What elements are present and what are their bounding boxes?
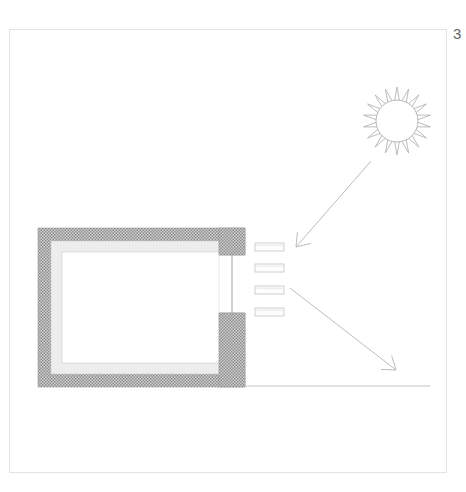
sun-ray	[395, 142, 400, 155]
louvre-slat-body	[255, 286, 284, 294]
sun-ray	[417, 122, 430, 127]
louvre-slat	[255, 286, 284, 294]
section-drawing	[0, 0, 466, 492]
louvre-slat	[255, 308, 284, 316]
arrow-shaft	[290, 288, 396, 370]
sun-ray	[395, 87, 400, 100]
sun-icon	[364, 87, 431, 155]
building-interior	[62, 252, 219, 363]
arrow-head-barb	[296, 232, 297, 247]
summer-sun-ray-arrow	[296, 161, 371, 247]
louvre-slat-body	[255, 264, 284, 272]
sun-ray	[364, 122, 377, 127]
diagram-page: 3	[0, 0, 466, 492]
sun-ray	[402, 140, 409, 153]
shading-louvre-slats	[255, 243, 284, 316]
opening-head-jamb	[219, 228, 245, 255]
sun-ray	[385, 140, 392, 153]
sun-rays	[364, 87, 431, 155]
building-section	[38, 228, 245, 387]
arrow-head-barb	[381, 369, 396, 370]
louvre-slat	[255, 264, 284, 272]
arrow-shaft	[296, 161, 371, 247]
winter-sun-ray-arrow	[290, 288, 396, 370]
sun-ray	[417, 115, 430, 120]
opening-sill-jamb	[219, 313, 245, 387]
sun-ray	[364, 115, 377, 120]
sun-ray	[402, 89, 409, 102]
sun-ray	[385, 89, 392, 102]
louvre-slat-body	[255, 243, 284, 251]
louvre-slat-body	[255, 308, 284, 316]
sun-ray-arrows	[290, 161, 396, 370]
louvre-slat	[255, 243, 284, 251]
sun-disc	[376, 100, 418, 142]
